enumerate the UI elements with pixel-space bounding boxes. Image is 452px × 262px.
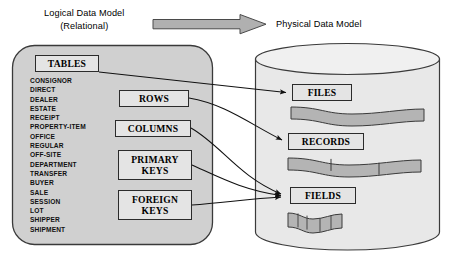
rows-box[interactable]: ROWS <box>119 90 189 107</box>
physical-model-title: Physical Data Model <box>276 19 362 29</box>
logical-model-title: Logical Data Model (Relational) <box>44 7 124 32</box>
diagram-canvas: Logical Data Model (Relational) Physical… <box>0 0 452 262</box>
table-name-item: REGULAR <box>30 141 112 150</box>
primary-keys-box-label: PRIMARY KEYS <box>131 154 178 176</box>
table-name-item: ESTATE <box>30 104 112 113</box>
table-name-item: RECEIPT <box>30 113 112 122</box>
table-name-item: OFFICE <box>30 132 112 141</box>
table-name-item: SESSION <box>30 197 112 206</box>
files-box[interactable]: FILES <box>292 84 352 101</box>
table-name-item: SHIPPER <box>30 215 112 224</box>
table-name-item: SALE <box>30 188 112 197</box>
table-name-item: SHIPMENT <box>30 225 112 234</box>
table-name-item: LOT <box>30 206 112 215</box>
table-name-item: PROPERTY-ITEM <box>30 122 112 131</box>
logical-model-title-line2: (Relational) <box>44 20 124 33</box>
table-name-list: CONSIGNORDIRECTDEALERESTATERECEIPTPROPER… <box>30 76 112 234</box>
primary-keys-box[interactable]: PRIMARY KEYS <box>118 150 192 180</box>
table-name-item: DIRECT <box>30 85 112 94</box>
fields-box[interactable]: FIELDS <box>290 187 356 204</box>
records-box[interactable]: RECORDS <box>288 133 364 150</box>
table-name-item: BUYER <box>30 178 112 187</box>
tables-box[interactable]: TABLES <box>35 55 99 72</box>
columns-box[interactable]: COLUMNS <box>115 120 191 137</box>
table-name-item: DEALER <box>30 95 112 104</box>
foreign-keys-box[interactable]: FOREIGN KEYS <box>118 190 192 220</box>
table-name-item: CONSIGNOR <box>30 76 112 85</box>
table-name-item: TRANSFER <box>30 169 112 178</box>
logical-model-title-line1: Logical Data Model <box>44 7 124 20</box>
table-name-item: OFF-SITE <box>30 150 112 159</box>
transition-arrow-icon <box>153 15 266 34</box>
foreign-keys-box-label: FOREIGN KEYS <box>132 194 178 216</box>
table-name-item: DEPARTMENT <box>30 160 112 169</box>
